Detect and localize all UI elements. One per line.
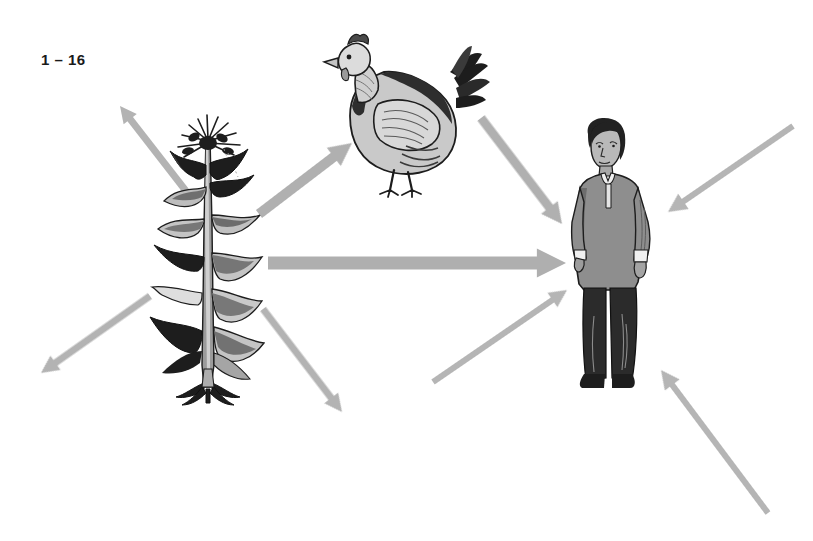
person-hand-left bbox=[574, 258, 584, 272]
person-tunic-placket bbox=[606, 184, 611, 208]
person-illustration bbox=[0, 0, 813, 541]
person-pants-left bbox=[583, 288, 606, 380]
person-cuff-right bbox=[634, 250, 648, 262]
figure-container: 1 – 16 bbox=[0, 0, 813, 541]
person-hand-right bbox=[634, 262, 646, 278]
person-foot-right bbox=[612, 374, 635, 388]
person-foot-left bbox=[580, 374, 605, 388]
